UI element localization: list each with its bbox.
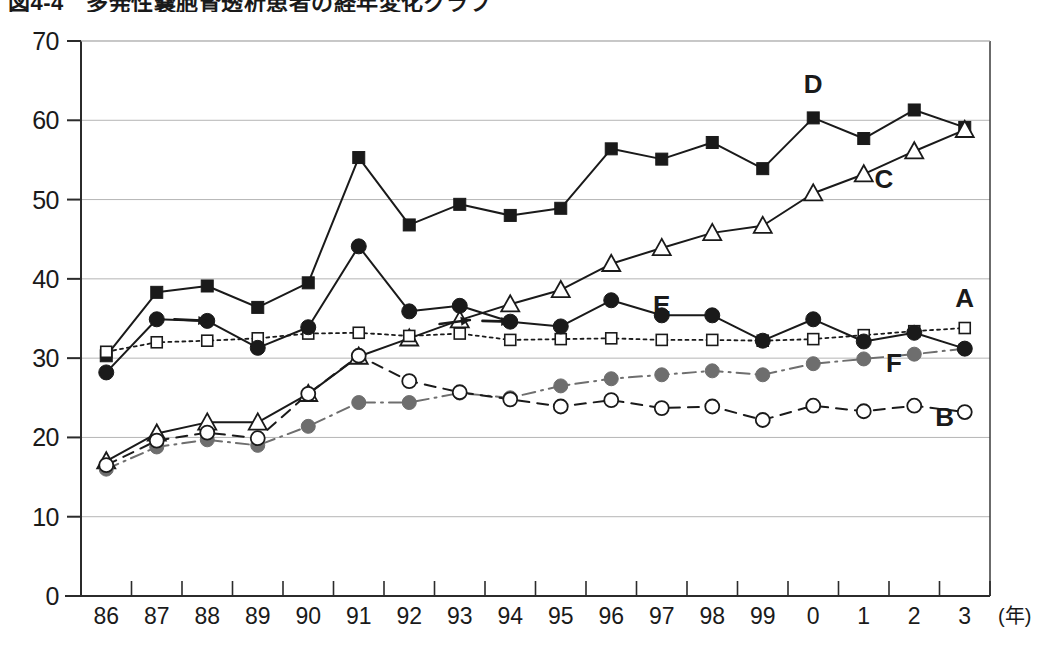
series-line-C	[106, 130, 965, 461]
x-axis-label-91: 91	[346, 603, 372, 629]
marker-E-3	[250, 340, 265, 355]
series-line-E	[106, 246, 965, 372]
marker-E-9	[553, 319, 568, 334]
series-E	[106, 246, 965, 372]
marker-E-17	[957, 341, 972, 356]
marker-B-17	[958, 405, 972, 419]
marker-D-13	[757, 163, 769, 175]
marker-E-16	[907, 325, 922, 340]
marker-F-4	[301, 419, 315, 433]
marker-C-15	[855, 165, 873, 181]
series-label-D: D	[804, 69, 823, 99]
marker-F-15	[857, 352, 871, 366]
marker-E-14	[806, 312, 821, 327]
marker-A-2	[202, 335, 213, 346]
y-axis-label-60: 60	[32, 106, 59, 134]
marker-A-1	[151, 337, 162, 348]
marker-B-7	[453, 385, 467, 399]
marker-B-4	[301, 387, 315, 401]
marker-A-10	[606, 333, 617, 344]
marker-A-0	[101, 346, 112, 357]
marker-A-5	[353, 327, 364, 338]
series-label-E: E	[653, 290, 670, 320]
chart-caption-clipped	[0, 643, 1040, 655]
marker-B-6	[402, 374, 416, 388]
y-axis-labels: 010203040506070	[32, 27, 59, 610]
series-markers-B	[99, 349, 972, 472]
series-D	[106, 110, 965, 356]
marker-D-9	[555, 202, 567, 214]
series-markers-E	[99, 239, 973, 380]
marker-D-8	[504, 209, 516, 221]
x-axis-label-0: 0	[807, 603, 820, 629]
marker-B-2	[200, 426, 214, 440]
marker-D-5	[353, 152, 365, 164]
marker-E-4	[301, 320, 316, 335]
x-axis-label-1: 1	[857, 603, 870, 629]
y-axis-ticks	[67, 41, 81, 596]
series-A	[106, 328, 965, 352]
y-axis-label-40: 40	[32, 265, 59, 293]
marker-C-13	[754, 217, 772, 233]
marker-D-2	[201, 280, 213, 292]
series-label-B: B	[935, 402, 954, 432]
x-axis-label-86: 86	[93, 603, 119, 629]
marker-A-12	[707, 334, 718, 345]
x-axis-unit-label: (年)	[998, 605, 1031, 627]
marker-B-8	[503, 392, 517, 406]
marker-A-9	[555, 334, 566, 345]
marker-D-11	[656, 153, 668, 165]
y-axis-label-70: 70	[32, 27, 59, 55]
series-line-B	[106, 356, 965, 465]
marker-B-1	[150, 434, 164, 448]
marker-A-11	[656, 334, 667, 345]
marker-D-12	[706, 136, 718, 148]
marker-D-4	[302, 277, 314, 289]
x-axis-labels: 86878889909192939495969798990123(年)	[93, 603, 1031, 629]
x-axis-label-87: 87	[144, 603, 170, 629]
marker-C-9	[552, 281, 570, 297]
marker-D-1	[151, 286, 163, 298]
y-axis-label-20: 20	[32, 423, 59, 451]
marker-A-7	[454, 328, 465, 339]
marker-B-0	[99, 458, 113, 472]
marker-A-14	[808, 334, 819, 345]
marker-F-6	[402, 396, 416, 410]
series-line-A	[106, 328, 965, 352]
marker-B-3	[251, 431, 265, 445]
data-series-layer	[97, 104, 974, 476]
series-label-F: F	[886, 348, 902, 378]
marker-F-5	[352, 396, 366, 410]
x-axis-label-99: 99	[750, 603, 776, 629]
marker-E-7	[452, 298, 467, 313]
series-B	[106, 356, 965, 465]
marker-B-10	[604, 393, 618, 407]
marker-A-8	[505, 334, 516, 345]
y-axis-label-30: 30	[32, 344, 59, 372]
marker-E-1	[149, 312, 164, 327]
marker-F-11	[655, 368, 669, 382]
marker-F-14	[806, 357, 820, 371]
x-axis-label-2: 2	[908, 603, 921, 629]
marker-F-13	[756, 368, 770, 382]
marker-C-16	[905, 142, 923, 158]
x-axis-label-90: 90	[295, 603, 321, 629]
marker-A-6	[404, 330, 415, 341]
marker-E-5	[351, 239, 366, 254]
series-line-D	[106, 110, 965, 356]
series-label-A: A	[955, 283, 974, 313]
marker-B-13	[756, 413, 770, 427]
gridlines	[81, 41, 990, 517]
y-axis-label-10: 10	[32, 503, 59, 531]
marker-E-10	[604, 293, 619, 308]
marker-E-6	[402, 304, 417, 319]
x-axis-label-93: 93	[447, 603, 473, 629]
marker-B-12	[705, 400, 719, 414]
marker-C-10	[602, 255, 620, 271]
marker-D-14	[807, 112, 819, 124]
x-axis-label-94: 94	[497, 603, 523, 629]
marker-E-0	[99, 365, 114, 380]
x-axis-label-89: 89	[245, 603, 271, 629]
series-label-C: C	[875, 164, 894, 194]
marker-E-15	[856, 334, 871, 349]
